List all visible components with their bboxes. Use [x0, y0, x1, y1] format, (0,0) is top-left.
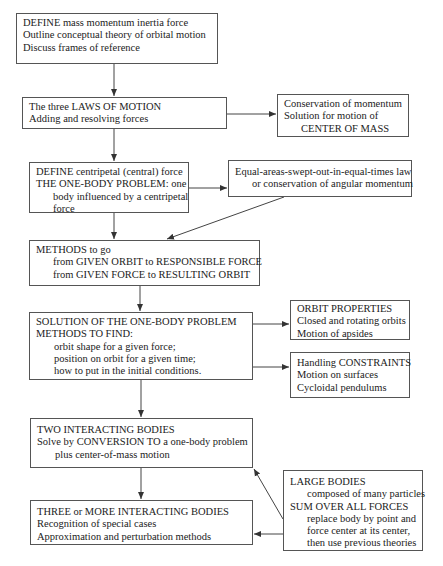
node-text: body influenced by a centripetal — [36, 191, 182, 203]
node-methods: METHODS to go from GIVEN ORBIT to RESPON… — [29, 240, 260, 286]
node-text: replace body by point and — [290, 513, 416, 525]
node-text: how to put in the initial conditions. — [36, 365, 246, 377]
node-constraints: Handling CONSTRAINTS Motion on surfaces … — [290, 352, 410, 398]
node-text: TWO INTERACTING BODIES — [37, 424, 246, 436]
node-text: SOLUTION OF THE ONE-BODY PROBLEM — [36, 316, 246, 328]
node-text: force — [36, 203, 182, 215]
node-text: force center at its center, — [290, 525, 416, 537]
node-text: Motion of apsides — [297, 328, 403, 340]
node-text: orbit shape for a given force; — [36, 341, 246, 353]
node-text: Cycloidal pendulums — [297, 382, 403, 394]
node-orbit-properties: ORBIT PROPERTIES Closed and rotating orb… — [290, 300, 410, 340]
node-text: CENTER OF MASS — [284, 123, 402, 135]
node-text: DEFINE mass momentum inertia force — [23, 17, 211, 29]
node-text: Outline conceptual theory of orbital mot… — [23, 29, 211, 41]
node-solution-one-body: SOLUTION OF THE ONE-BODY PROBLEM METHODS… — [29, 312, 253, 380]
node-text: ORBIT PROPERTIES — [297, 303, 403, 315]
node-three-bodies: THREE or MORE INTERACTING BODIES Recogni… — [30, 500, 253, 545]
node-text: plus center-of-mass motion — [37, 449, 246, 461]
edge-large-to-two — [254, 469, 283, 519]
node-text: THREE or MORE INTERACTING BODIES — [37, 506, 246, 518]
node-define-mass: DEFINE mass momentum inertia force Outli… — [16, 13, 218, 64]
node-text: Approximation and perturbation methods — [37, 531, 246, 543]
node-text: Motion on surfaces — [297, 369, 403, 381]
node-text: LARGE BODIES — [290, 476, 416, 488]
node-large-bodies: LARGE BODIES composed of many particles … — [283, 470, 423, 551]
node-equal-areas: Equal-areas-swept-out-in-equal-times law… — [228, 160, 412, 197]
node-text: Adding and resolving forces — [29, 113, 220, 125]
node-text: or conservation of angular momentum — [235, 178, 405, 190]
node-text: METHODS TO FIND: — [36, 328, 246, 340]
node-text: THE ONE-BODY PROBLEM: one — [36, 178, 182, 190]
node-text: composed of many particles — [290, 488, 416, 500]
node-text: Recognition of special cases — [37, 518, 246, 530]
node-text: Equal-areas-swept-out-in-equal-times law — [235, 166, 405, 178]
node-laws-of-motion: The three LAWS OF MOTION Adding and reso… — [22, 97, 227, 129]
node-text: Discuss frames of reference — [23, 42, 211, 54]
node-text: from GIVEN FORCE to RESULTING ORBIT — [36, 269, 253, 281]
node-text: position on orbit for a given time; — [36, 353, 246, 365]
node-text: METHODS to go — [36, 244, 253, 256]
node-two-bodies: TWO INTERACTING BODIES Solve by CONVERSI… — [30, 418, 253, 468]
node-text: from GIVEN ORBIT to RESPONSIBLE FORCE — [36, 256, 253, 268]
node-text: The three LAWS OF MOTION — [29, 101, 220, 113]
node-text: SUM OVER ALL FORCES — [290, 501, 416, 513]
node-text: Closed and rotating orbits — [297, 315, 403, 327]
node-text: Solution for motion of — [284, 110, 402, 122]
node-center-of-mass: Conservation of momentum Solution for mo… — [277, 94, 409, 137]
node-text: Handling CONSTRAINTS — [297, 357, 403, 369]
node-text: DEFINE centripetal (central) force — [36, 166, 182, 178]
node-centripetal-force: DEFINE centripetal (central) force THE O… — [29, 162, 189, 213]
node-text: then use previous theories — [290, 537, 416, 549]
node-text: Conservation of momentum — [284, 98, 402, 110]
node-text: Solve by CONVERSION TO a one-body proble… — [37, 436, 246, 448]
